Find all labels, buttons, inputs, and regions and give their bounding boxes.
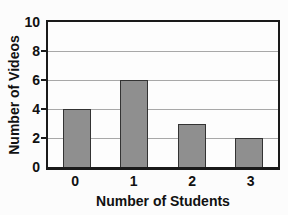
y-tick-label: 6 xyxy=(14,72,40,88)
x-tick-label: 1 xyxy=(114,173,154,189)
y-axis-tick xyxy=(41,137,47,139)
x-tick-label: 0 xyxy=(55,173,95,189)
x-tick-label: 3 xyxy=(231,173,271,189)
y-tick-label: 2 xyxy=(14,130,40,146)
y-axis-tick xyxy=(41,108,47,110)
y-tick-label: 0 xyxy=(14,159,40,175)
x-axis-tick-labels: 0123 xyxy=(46,173,280,189)
bar-0 xyxy=(63,109,91,167)
gridline xyxy=(48,80,278,81)
y-tick-label: 4 xyxy=(14,101,40,117)
x-axis-title: Number of Students xyxy=(46,193,280,209)
bar-chart: Number of Videos 0246810 0123 Number of … xyxy=(0,0,288,215)
plot-area: 0246810 xyxy=(46,20,280,170)
y-tick-label: 10 xyxy=(14,14,40,30)
y-tick-label: 8 xyxy=(14,43,40,59)
y-axis-tick xyxy=(41,79,47,81)
gridline xyxy=(48,51,278,52)
bar-3 xyxy=(235,138,263,167)
x-tick-label: 2 xyxy=(172,173,212,189)
bar-1 xyxy=(120,80,148,167)
y-axis-tick xyxy=(41,50,47,52)
bar-2 xyxy=(178,124,206,168)
